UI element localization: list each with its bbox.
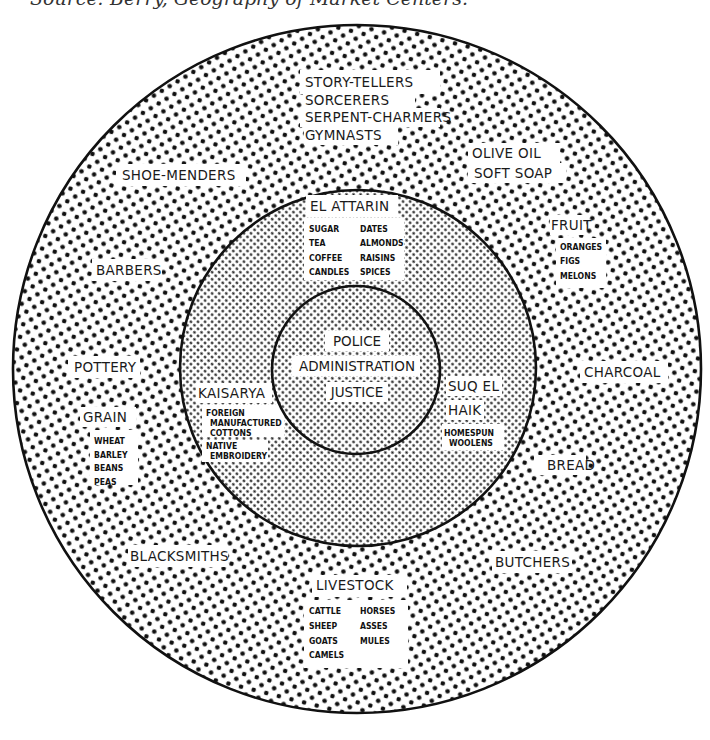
el-attarin-item: RAISINS — [360, 253, 395, 263]
core-administration: ADMINISTRATION — [299, 358, 415, 374]
el-attarin-item: COFFEE — [309, 253, 342, 263]
kaisarya-item: FOREIGN — [206, 408, 245, 418]
grain-item: BEANS — [94, 463, 123, 473]
livestock-item: ASSES — [360, 621, 388, 631]
core-justice: JUSTICE — [330, 384, 384, 400]
el-attarin-item: SPICES — [360, 267, 391, 277]
suq-el-haik-item: HOMESPUN — [444, 428, 494, 438]
fruit-item: MELONS — [560, 271, 596, 281]
sorcerers-label: SORCERERS — [305, 92, 389, 108]
kaisarya-item: MANUFACTURED — [210, 418, 282, 428]
grain-label: GRAIN — [83, 409, 127, 425]
grain-item: BARLEY — [94, 450, 128, 460]
core-police: POLICE — [333, 333, 381, 349]
grain-item: WHEAT — [94, 436, 126, 446]
market-zones-diagram: POLICE ADMINISTRATION JUSTICE EL ATTARIN… — [0, 0, 710, 740]
suq-el-haik-item: WOOLENS — [449, 438, 493, 448]
butchers-label: BUTCHERS — [495, 554, 570, 570]
livestock-label: LIVESTOCK — [316, 577, 395, 593]
olive-oil-label: OLIVE OIL — [472, 145, 541, 161]
livestock-item: SHEEP — [309, 621, 338, 631]
shoe-menders-label: SHOE-MENDERS — [122, 167, 236, 183]
kaisarya-label: KAISARYA — [198, 385, 266, 401]
fruit-label: FRUIT — [551, 217, 592, 233]
livestock-item: CAMELS — [309, 650, 344, 660]
kaisarya-item: COTTONS — [210, 428, 252, 438]
el-attarin-item: DATES — [360, 224, 388, 234]
grain-item: PEAS — [94, 477, 117, 487]
story-tellers-label: STORY-TELLERS — [305, 74, 413, 90]
bread-label: BREAD — [547, 457, 595, 473]
el-attarin-item: TEA — [309, 238, 326, 248]
el-attarin-item: ALMONDS — [360, 238, 404, 248]
el-attarin-label: EL ATTARIN — [310, 198, 389, 214]
el-attarin-item: SUGAR — [309, 224, 339, 234]
el-attarin-item: CANDLES — [309, 267, 349, 277]
fruit-item: FIGS — [560, 256, 580, 266]
pottery-label: POTTERY — [74, 359, 137, 375]
suq-el-label: SUQ EL — [448, 378, 499, 394]
haik-label: HAIK — [448, 402, 482, 418]
kaisarya-item: EMBROIDERY — [210, 451, 267, 461]
charcoal-label: CHARCOAL — [584, 364, 661, 380]
barbers-label: BARBERS — [96, 262, 162, 278]
gymnasts-label: GYMNASTS — [305, 127, 382, 143]
kaisarya-item: NATIVE — [206, 441, 237, 451]
livestock-item: HORSES — [360, 606, 395, 616]
soft-soap-label: SOFT SOAP — [474, 165, 552, 181]
livestock-item: CATTLE — [309, 606, 341, 616]
serpent-charmers-label: SERPENT-CHARMERS — [305, 109, 451, 125]
blacksmiths-label: BLACKSMITHS — [130, 548, 229, 564]
fruit-item: ORANGES — [560, 242, 602, 252]
livestock-item: GOATS — [309, 636, 338, 646]
livestock-item: MULES — [360, 636, 390, 646]
